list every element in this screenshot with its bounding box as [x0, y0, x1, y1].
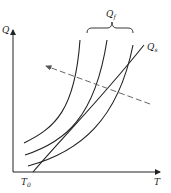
diagram-canvas: Q T T0 Qf Qs: [0, 0, 171, 193]
x-axis-label: T: [154, 177, 161, 187]
qs-line: [33, 45, 144, 172]
qs-sub: s: [154, 46, 157, 53]
svg-text:T: T: [154, 177, 161, 187]
svg-text:T0: T0: [21, 177, 31, 188]
qf-brace: [87, 22, 133, 33]
t0-sub: 0: [27, 181, 31, 188]
y-axis-label: Q: [2, 25, 10, 35]
svg-text:Qs: Qs: [147, 42, 157, 53]
qf-sub: f: [112, 13, 117, 21]
svg-text:Qf: Qf: [106, 9, 117, 21]
svg-text:Q: Q: [2, 25, 10, 35]
qf-curve-2: [25, 40, 107, 155]
dashed-arrow: [46, 66, 150, 104]
